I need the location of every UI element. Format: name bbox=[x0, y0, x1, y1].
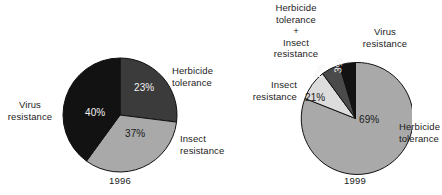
pie-1999-year-caption: 1999 bbox=[325, 175, 385, 186]
pie-1996-graphic bbox=[62, 57, 178, 173]
pie-chart-1996: 23% 37% 40% Herbicide tolerance Insect r… bbox=[0, 0, 221, 195]
pie-1999-label-insect-resistance: Insect resistance bbox=[235, 79, 297, 102]
two-pie-chart-figure: 23% 37% 40% Herbicide tolerance Insect r… bbox=[0, 0, 442, 195]
pie-1999-label-herbicide-plus-insect: Herbicide tolerance + Insect resistance bbox=[255, 2, 337, 60]
pie-1996-label-herbicide-tolerance: Herbicide tolerance bbox=[172, 65, 224, 88]
pie-1996-label-virus-resistance: Virus resistance bbox=[0, 99, 60, 122]
pie-1996-svg bbox=[62, 57, 178, 173]
pie-1999-label-virus-resistance: Virus resistance bbox=[354, 26, 416, 49]
pie-1999-graphic bbox=[299, 62, 412, 175]
pie-1996-slice-herbicide-tolerance bbox=[120, 58, 177, 122]
pie-1999-svg bbox=[299, 62, 412, 175]
pie-chart-1999: 69% 21% 7% 3% Herbicide tolerance + Inse… bbox=[221, 0, 442, 195]
pie-1996-year-caption: 1996 bbox=[90, 175, 150, 186]
pie-1999-label-herbicide-tolerance: Herbicide tolerance bbox=[399, 121, 442, 144]
